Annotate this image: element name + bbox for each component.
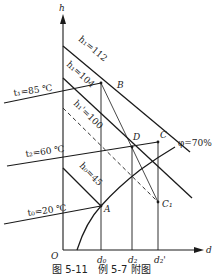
point-c bbox=[157, 141, 160, 144]
phi-label: φ=70% bbox=[178, 138, 212, 148]
h1-104-label: h₁=104 bbox=[65, 59, 97, 89]
point-a-label: A bbox=[103, 204, 111, 214]
h-axis-arrow-icon bbox=[60, 14, 66, 24]
d-axis-arrow-icon bbox=[194, 247, 204, 253]
d-axis-label: d bbox=[206, 245, 212, 255]
h1-112-label: h₁=112 bbox=[77, 34, 110, 64]
point-b bbox=[100, 82, 103, 85]
phi-70-curve bbox=[77, 147, 175, 250]
h1p-100-label: h₁'=100 bbox=[72, 98, 105, 131]
point-a bbox=[100, 205, 103, 208]
figure-caption: 图 5-11 例 5-7 附图 bbox=[52, 263, 151, 275]
origin-label: O bbox=[51, 251, 59, 261]
axes bbox=[63, 22, 196, 250]
psychrometric-diagram: h d O d₀ d₂ d₂' h₁=112 h₁=104 h₁'=100 h₀… bbox=[0, 0, 215, 275]
h-axis-label: h bbox=[59, 3, 65, 13]
d2p-tick-label: d₂' bbox=[154, 255, 166, 265]
point-c1 bbox=[157, 201, 160, 204]
point-c1-label: C₁ bbox=[162, 199, 173, 209]
point-d-label: D bbox=[132, 132, 140, 142]
t2-label: t₂=60 ℃ bbox=[25, 144, 65, 159]
point-d bbox=[131, 146, 134, 149]
point-b-label: B bbox=[116, 80, 124, 90]
t1-label: t₁=85 ℃ bbox=[13, 83, 53, 98]
point-c-label: C bbox=[160, 130, 167, 140]
